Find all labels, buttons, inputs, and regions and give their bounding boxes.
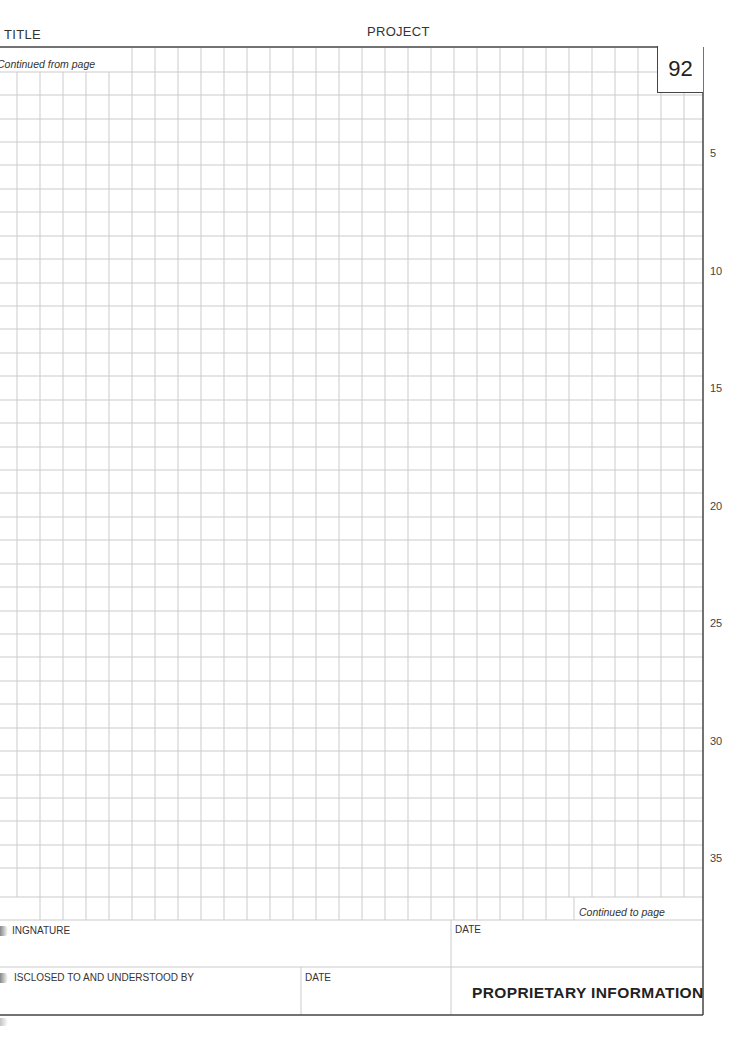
line-number-20: 20	[710, 500, 722, 512]
line-number-5: 5	[710, 147, 716, 159]
grid-lines	[0, 48, 703, 1015]
continued-from-label: Continued from page	[0, 58, 97, 70]
graph-grid	[0, 0, 755, 1050]
page-number-box: 92	[657, 46, 703, 93]
project-field[interactable]	[360, 0, 703, 46]
proprietary-information-label: PROPRIETARY INFORMATION	[472, 984, 704, 1002]
line-number-35: 35	[710, 852, 722, 864]
line-number-25: 25	[710, 617, 722, 629]
disclosed-date-field[interactable]	[301, 967, 451, 1015]
signature-date-field[interactable]	[451, 920, 703, 967]
continued-to-label: Continued to page	[579, 906, 665, 918]
line-number-10: 10	[710, 265, 722, 277]
title-field[interactable]	[0, 0, 360, 46]
signature-field[interactable]	[0, 920, 451, 967]
disclosed-field[interactable]	[0, 967, 301, 1015]
line-number-15: 15	[710, 382, 722, 394]
line-number-30: 30	[710, 735, 722, 747]
binding-shadow	[0, 1018, 8, 1026]
frame-lines	[0, 47, 703, 1015]
